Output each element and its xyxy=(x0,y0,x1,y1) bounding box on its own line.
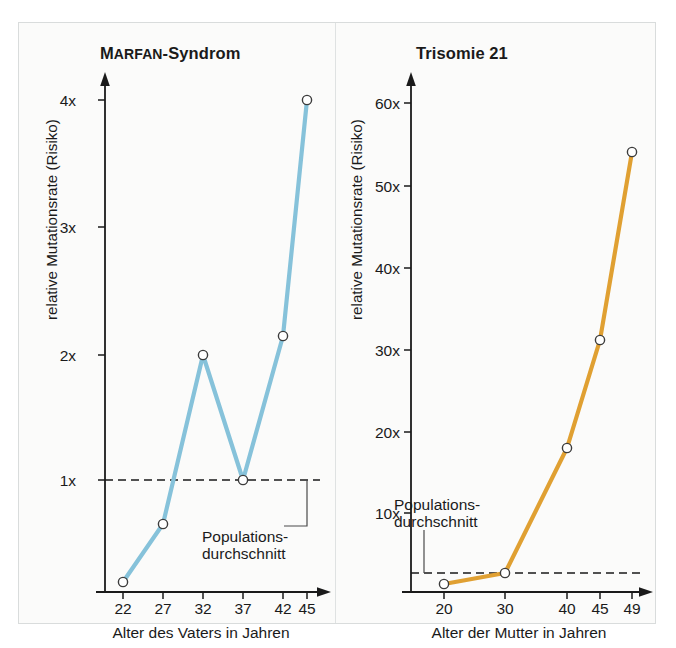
plot-area-marfan xyxy=(18,22,336,624)
y-tick-label: 40x xyxy=(350,260,400,278)
data-point xyxy=(562,443,571,452)
title-head: M xyxy=(100,44,114,62)
y-axis-marfan xyxy=(100,72,110,592)
y-tick-label: 60x xyxy=(350,95,400,113)
x-tick-label: 49 xyxy=(612,600,652,618)
chart-panel-trisomie: Trisomie 21 relative Mutationsrate (Risi… xyxy=(336,22,656,624)
data-point xyxy=(158,519,167,528)
x-tick-label: 30 xyxy=(485,600,525,618)
data-point xyxy=(627,147,636,156)
annotation-line-1: Populations- xyxy=(202,528,288,545)
data-point xyxy=(595,335,604,344)
y-tick-label: 2x xyxy=(38,347,76,365)
x-axis-label-trisomie: Alter der Mutter in Jahren xyxy=(394,624,644,642)
title-tail: -Syndrom xyxy=(163,44,241,62)
chart-title-trisomie: Trisomie 21 xyxy=(416,44,508,63)
x-tick-label: 37 xyxy=(223,600,263,618)
chart-title-marfan: MARFAN-Syndrom xyxy=(100,44,240,63)
y-tick-label: 1x xyxy=(38,472,76,490)
data-series-marfan xyxy=(123,100,307,582)
data-point xyxy=(500,568,509,577)
x-tick-label: 45 xyxy=(287,600,327,618)
reference-annotation-trisomie: Populations- durchschnitt xyxy=(394,496,480,531)
x-tick-label: 20 xyxy=(424,600,464,618)
y-axis-label-trisomie: relative Mutationsrate (Risiko) xyxy=(348,119,365,320)
y-tick-label: 10x xyxy=(350,505,400,523)
data-point xyxy=(118,577,127,586)
data-point xyxy=(198,350,207,359)
annotation-line-2: durchschnitt xyxy=(202,545,288,562)
y-tick-label: 20x xyxy=(350,424,400,442)
data-point xyxy=(238,475,247,484)
x-tick-label: 32 xyxy=(183,600,223,618)
y-tick-label: 50x xyxy=(350,178,400,196)
data-markers-marfan xyxy=(118,95,311,586)
annotation-line-1: Populations- xyxy=(394,496,480,513)
y-ticks-trisomie xyxy=(404,103,411,513)
x-tick-label: 22 xyxy=(103,600,143,618)
chart-panel-marfan: MARFAN-Syndrom relative Mutationsrate (R… xyxy=(18,22,336,624)
reference-annotation-marfan: Populations- durchschnitt xyxy=(202,528,288,563)
x-tick-label: 27 xyxy=(143,600,183,618)
x-axis-label-marfan: Alter des Vaters in Jahren xyxy=(76,624,326,642)
x-axis-marfan xyxy=(96,587,331,597)
y-tick-label: 4x xyxy=(38,92,76,110)
annotation-line-2: durchschnitt xyxy=(394,513,480,530)
x-ticks-marfan xyxy=(123,592,307,599)
data-point xyxy=(278,331,287,340)
title-smallcaps: ARFAN xyxy=(114,46,163,62)
x-axis-trisomie xyxy=(402,587,653,597)
x-ticks-trisomie xyxy=(444,592,632,599)
annotation-leader-marfan xyxy=(284,480,307,526)
data-point xyxy=(439,579,448,588)
y-tick-label: 30x xyxy=(350,342,400,360)
figure-root: MARFAN-Syndrom relative Mutationsrate (R… xyxy=(0,0,676,648)
data-point xyxy=(302,95,311,104)
y-tick-label: 3x xyxy=(38,219,76,237)
y-ticks-marfan xyxy=(98,100,105,480)
